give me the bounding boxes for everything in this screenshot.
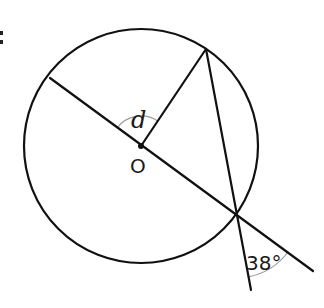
chord-line	[206, 49, 251, 290]
center-point-dot	[138, 143, 144, 149]
angle-label-d: d	[131, 106, 146, 134]
cropped-colon-glyph	[0, 31, 3, 44]
geometry-diagram: d O 38°	[0, 0, 324, 308]
diameter-line	[50, 78, 313, 271]
center-label-o: O	[130, 154, 146, 178]
radius-line	[141, 49, 206, 146]
angle-label-38: 38°	[246, 251, 281, 275]
